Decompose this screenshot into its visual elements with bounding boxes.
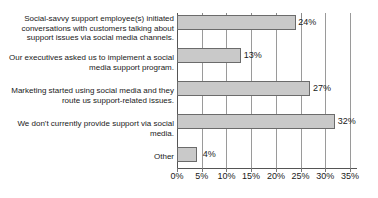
bar-value-1: 13% bbox=[244, 51, 262, 60]
bar-value-0: 24% bbox=[298, 18, 316, 27]
category-label-1: Our executives asked us to implement a s… bbox=[8, 53, 174, 72]
bar-1 bbox=[177, 48, 241, 63]
bar-value-4: 4% bbox=[203, 150, 216, 159]
axis-line-x bbox=[177, 168, 357, 169]
x-tick-label-3: 15% bbox=[242, 171, 260, 181]
x-tick-label-0: 0% bbox=[170, 171, 183, 181]
plot-area: 24% 13% 27% 32% 4% 0% 5% 10% bbox=[177, 13, 350, 168]
bar-4 bbox=[177, 147, 197, 162]
bar-row-0: 24% bbox=[177, 15, 350, 30]
category-label-0: Social-savvy support employee(s) initiat… bbox=[8, 14, 174, 43]
category-label-3: We don't currently provide support via s… bbox=[8, 119, 174, 138]
x-tick-label-2: 10% bbox=[217, 171, 235, 181]
gridline-35 bbox=[350, 13, 351, 168]
bar-value-2: 27% bbox=[313, 84, 331, 93]
x-tick-label-5: 25% bbox=[292, 171, 310, 181]
bar-row-3: 32% bbox=[177, 114, 350, 129]
bar-3 bbox=[177, 114, 335, 129]
bar-value-3: 32% bbox=[338, 117, 356, 126]
bar-chart: Social-savvy support employee(s) initiat… bbox=[0, 0, 378, 198]
x-tick-label-1: 5% bbox=[195, 171, 208, 181]
bar-row-2: 27% bbox=[177, 81, 350, 96]
x-tick-label-6: 30% bbox=[316, 171, 334, 181]
bar-row-4: 4% bbox=[177, 147, 350, 162]
category-label-2: Marketing started using social media and… bbox=[8, 86, 174, 105]
category-label-4: Other bbox=[8, 152, 174, 162]
bar-2 bbox=[177, 81, 310, 96]
x-tick-label-7: 35% bbox=[341, 171, 359, 181]
x-tick-label-4: 20% bbox=[267, 171, 285, 181]
bar-row-1: 13% bbox=[177, 48, 350, 63]
bar-0 bbox=[177, 15, 296, 30]
